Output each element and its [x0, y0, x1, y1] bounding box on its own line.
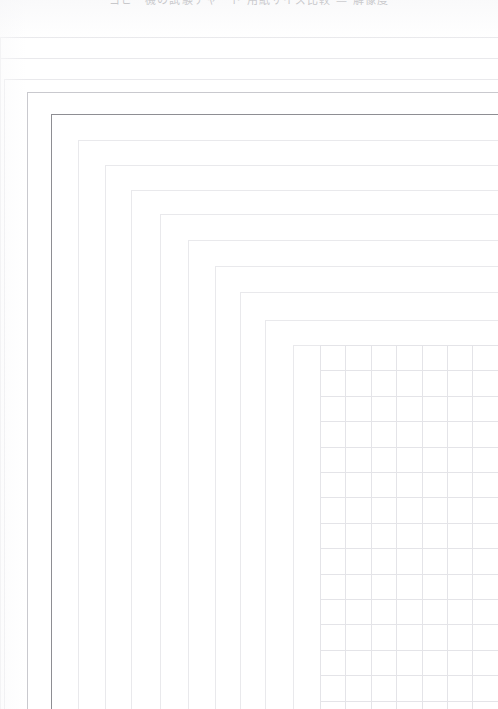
grid-col-line: [371, 345, 372, 709]
frame-13-top-edge: [265, 320, 498, 321]
frame-3-left-edge: [4, 79, 5, 709]
frame-13-left-edge: [265, 320, 266, 709]
grid-col-line: [447, 345, 448, 709]
frame-9-left-edge: [160, 214, 161, 709]
frame-11-top-edge: [215, 266, 498, 267]
frame-10-left-edge: [188, 240, 189, 709]
frame-12-left-edge: [240, 292, 241, 709]
frame-6-top-edge: [78, 140, 498, 141]
frame-9-top-edge: [160, 214, 498, 215]
frame-8-top-edge: [131, 190, 498, 191]
resolution-grid: [320, 345, 498, 709]
grid-col-line: [472, 345, 473, 709]
frame-11-left-edge: [215, 266, 216, 709]
frame-4-top-edge: [27, 92, 498, 93]
grid-col-line: [422, 345, 423, 709]
frame-3-top-edge: [4, 79, 498, 80]
scanned-page: コピー機の試験チャート 用紙サイズ比較 — 解像度: [0, 0, 498, 709]
frame-7-left-edge: [105, 165, 106, 709]
frame-main-top-edge: [51, 114, 498, 115]
frame-4-left-edge: [27, 92, 28, 709]
frame-10-top-edge: [188, 240, 498, 241]
frame-main-left-edge: [51, 114, 52, 709]
grid-col-line: [345, 345, 346, 709]
frame-8-left-edge: [131, 190, 132, 709]
grid-col-line: [396, 345, 397, 709]
page-caption: コピー機の試験チャート 用紙サイズ比較 — 解像度: [0, 0, 498, 7]
frame-7-top-edge: [105, 165, 498, 166]
frame-outer-2-top-edge: [0, 58, 498, 59]
grid-col-line: [320, 345, 321, 709]
frame-14-left-edge: [293, 345, 294, 709]
frame-outer-2-left-edge: [0, 58, 1, 709]
frame-outer-1-top-edge: [0, 37, 498, 38]
frame-6-left-edge: [78, 140, 79, 709]
frame-12-top-edge: [240, 292, 498, 293]
